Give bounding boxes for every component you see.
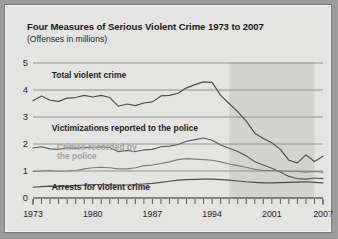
x-axis-label-1994: 1994 — [202, 209, 222, 219]
annotation-0: Total violent crime — [52, 70, 127, 80]
x-axis-label-1987: 1987 — [143, 209, 163, 219]
figure-panel: Four Measures of Serious Violent Crime 1… — [4, 4, 332, 233]
annotation-3: the police — [57, 151, 97, 161]
line-chart-svg: 012345197319801987199420012007Total viol… — [5, 5, 333, 234]
plot-area: 012345197319801987199420012007Total viol… — [5, 5, 333, 234]
x-axis-label-2007: 2007 — [313, 209, 333, 219]
y-axis-label-0: 0 — [23, 192, 28, 203]
y-axis-label-4: 4 — [23, 84, 28, 95]
y-axis-label-2: 2 — [23, 138, 28, 149]
annotation-1: Victimizations reported to the police — [52, 123, 199, 133]
x-axis-label-2001: 2001 — [262, 209, 282, 219]
y-axis-label-5: 5 — [23, 57, 28, 68]
y-axis-label-1: 1 — [23, 165, 28, 176]
x-axis-label-1973: 1973 — [23, 209, 43, 219]
x-axis-label-1980: 1980 — [83, 209, 103, 219]
annotation-4: Arrests for violent crime — [52, 182, 151, 192]
y-axis-label-3: 3 — [23, 111, 28, 122]
shaded-band — [229, 62, 314, 198]
